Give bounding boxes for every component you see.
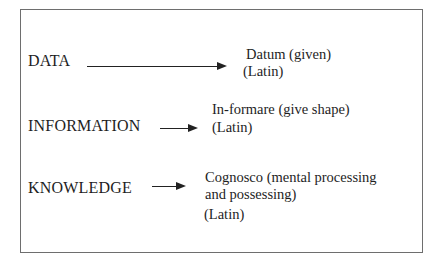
origin-knowledge: (Latin) [204, 206, 244, 223]
origin-information: (Latin) [212, 119, 252, 136]
term-knowledge: KNOWLEDGE [28, 179, 132, 197]
meaning-line: Datum (given) [246, 46, 331, 63]
meaning-information: In-formare (give shape) [212, 101, 350, 118]
meaning-line: and possessing) [205, 186, 377, 203]
arrow-right-icon [152, 182, 186, 190]
term-data: DATA [28, 52, 70, 70]
term-information: INFORMATION [28, 117, 140, 135]
meaning-knowledge: Cognosco (mental processing and possessi… [205, 169, 377, 203]
origin-data: (Latin) [243, 63, 283, 80]
meaning-line: In-formare (give shape) [212, 101, 350, 118]
arrow-right-icon [160, 124, 198, 132]
meaning-line: Cognosco (mental processing [205, 169, 377, 186]
meaning-data: Datum (given) [246, 46, 331, 63]
arrow-right-icon [87, 62, 227, 70]
